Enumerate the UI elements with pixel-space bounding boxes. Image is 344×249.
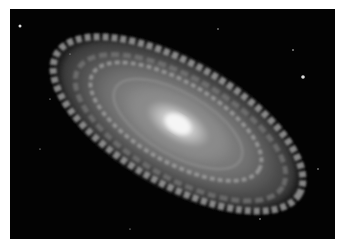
galaxy-photo [10, 9, 335, 239]
galaxy-illustration [10, 9, 335, 239]
